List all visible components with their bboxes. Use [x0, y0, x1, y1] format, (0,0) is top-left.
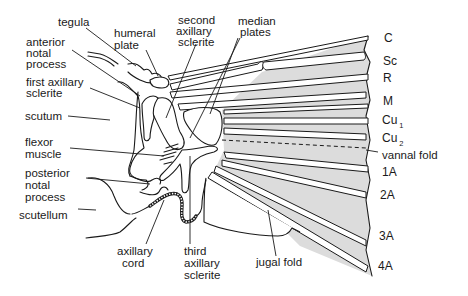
label-anterior-notal-process: anterior notal process: [26, 36, 68, 70]
label-posterior-notal-process: posterior notal process: [25, 167, 73, 203]
wing-base-diagram: tegula humeral plate anterior notal proc…: [0, 0, 468, 296]
label-jugal-fold: jugal fold: [255, 256, 302, 268]
vein-cubitus-1: [224, 118, 368, 124]
label-first-axillary-sclerite: first axillary sclerite: [26, 76, 87, 99]
vein-label-m: M: [383, 94, 393, 108]
label-scutellum: scutellum: [19, 209, 68, 221]
label-tegula: tegula: [58, 16, 90, 28]
label-scutum: scutum: [25, 110, 62, 122]
label-flexor-muscle: flexor muscle: [25, 136, 61, 160]
label-median-plates: median plates: [238, 15, 279, 38]
label-vannal-fold: vannal fold: [382, 149, 438, 161]
label-third-axillary-sclerite: third axillary sclerite: [184, 245, 223, 281]
vein-label-1a: 1A: [382, 165, 397, 179]
humeral-plate-shape: [150, 77, 169, 88]
vein-label-2a: 2A: [380, 188, 395, 202]
vein-label-cu1: Cu1: [382, 113, 404, 130]
vein-label-4a: 4A: [378, 259, 393, 273]
label-second-axillary-sclerite: second axillary sclerite: [176, 14, 218, 48]
vein-label-r: R: [383, 71, 392, 85]
vein-label-sc: Sc: [383, 54, 397, 68]
vein-label-cu2: Cu2: [382, 131, 404, 148]
label-axillary-cord: axillary cord: [117, 245, 156, 269]
label-humeral-plate: humeral plate: [114, 27, 159, 51]
vein-label-c: C: [384, 31, 393, 45]
scutellum-outline: [88, 178, 130, 214]
vein-label-3a: 3A: [379, 229, 394, 243]
